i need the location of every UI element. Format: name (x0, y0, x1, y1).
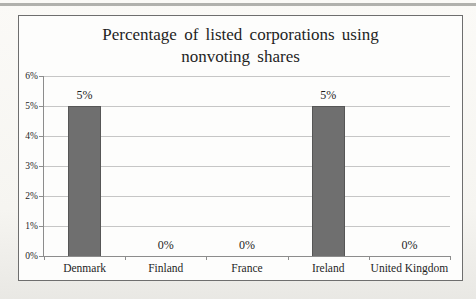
y-axis-label: 4% (0, 130, 38, 142)
y-axis-label: 6% (0, 70, 38, 82)
y-axis-tick (39, 136, 44, 137)
y-axis-label: 0% (0, 250, 38, 262)
scanned-page: Percentage of listed corporations using … (0, 0, 476, 299)
x-axis-tick (206, 256, 207, 260)
y-axis-label: 2% (0, 190, 38, 202)
x-axis-tick (369, 256, 370, 260)
y-axis-tick (39, 76, 44, 77)
bar-value-label: 0% (369, 239, 450, 252)
category-label: United Kingdom (369, 262, 450, 275)
category-label: Denmark (44, 262, 125, 275)
bar-value-label: 0% (206, 239, 287, 252)
y-axis-label: 5% (0, 100, 38, 112)
gridline (44, 106, 450, 107)
x-axis-tick (288, 256, 289, 260)
bar-value-label: 5% (44, 89, 125, 102)
y-axis-tick (39, 196, 44, 197)
x-axis-tick (125, 256, 126, 260)
gridline (44, 226, 450, 227)
category-label: France (206, 262, 287, 275)
x-axis-tick (450, 256, 451, 260)
bar (312, 106, 345, 256)
bar-value-label: 0% (125, 239, 206, 252)
y-axis-tick (39, 106, 44, 107)
category-label: Finland (125, 262, 206, 275)
y-axis-tick (39, 226, 44, 227)
category-label: Ireland (288, 262, 369, 275)
gridline (44, 76, 450, 77)
x-axis-tick (44, 256, 45, 260)
gridline (44, 196, 450, 197)
chart-frame: Percentage of listed corporations using … (18, 15, 463, 281)
y-axis-label: 3% (0, 160, 38, 172)
y-axis-tick (39, 166, 44, 167)
gridline (44, 166, 450, 167)
chart-title: Percentage of listed corporations using … (73, 24, 409, 68)
gridline (44, 136, 450, 137)
scan-edge-artifact (0, 3, 476, 6)
plot-area: 0%1%2%3%4%5%6%5%Denmark0%Finland0%France… (43, 76, 450, 257)
bar (68, 106, 101, 256)
bar-value-label: 5% (288, 89, 369, 102)
y-axis-label: 1% (0, 220, 38, 232)
